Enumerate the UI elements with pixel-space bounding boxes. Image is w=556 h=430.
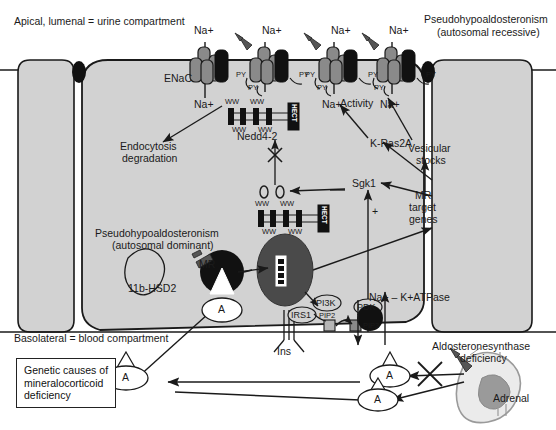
py-label-4: PY xyxy=(305,71,315,80)
pip2-node[interactable] xyxy=(324,320,335,331)
legend-line-3: deficiency xyxy=(24,389,108,402)
pha-recessive-line2: (autosomal recessive) xyxy=(437,27,540,39)
legend-box: Genetic causes of mineralocorticoid defi… xyxy=(16,358,116,408)
aldo-synthase-line2: deficiency xyxy=(460,353,507,365)
irs1-label: IRS1 xyxy=(291,310,311,320)
py-label-2: PY xyxy=(248,84,258,93)
hsd2-label: 11b-HSD2 xyxy=(128,283,176,295)
py-label-6: PY xyxy=(368,71,378,80)
apical-compartment-label: Apical, lumenal = urine compartment xyxy=(14,16,185,28)
enac-label: ENaC xyxy=(164,73,192,85)
py-label-5: PY xyxy=(317,84,327,93)
arrow-adrenal-to-a-upper xyxy=(408,374,464,376)
basolateral-compartment-label: Basolateral = blood compartment xyxy=(14,333,168,345)
hect-label-lower: HECT xyxy=(321,206,328,224)
pi3k-label: PI3K xyxy=(316,298,336,308)
py-label-7: PY xyxy=(374,84,384,93)
mr-target-line1: MR xyxy=(415,190,431,202)
ww-label-l2: WW xyxy=(280,200,294,209)
ww-label-l1: WW xyxy=(255,200,269,209)
na-label-in-1: Na+ xyxy=(194,99,214,111)
legend-line-1: Genetic causes of xyxy=(24,364,108,377)
ww-label-l3: WW xyxy=(262,228,276,237)
na-label-out-1: Na+ xyxy=(194,25,214,37)
ww-label-u1: WW xyxy=(225,98,239,107)
mr-label: MR xyxy=(199,259,215,271)
na-k-atpase-label: Na+ – K+ATPase xyxy=(369,292,450,304)
vesicular-line2: stocks xyxy=(416,155,446,167)
plus-sign-label: + xyxy=(372,206,378,218)
ww-label-l4: WW xyxy=(288,228,302,237)
mr-target-line3: genes xyxy=(409,214,438,226)
pha-dominant-line2: (autosomal dominant) xyxy=(112,240,214,252)
nucleus xyxy=(257,234,313,306)
a-label-mid-upper: A xyxy=(386,370,393,382)
aldo-synthase-line1: Aldosteronesynthase xyxy=(432,341,530,353)
pha-dominant-line1: Pseudohypoaldosteronism xyxy=(95,228,219,240)
neighbour-cell-left xyxy=(18,60,74,332)
k-ras2a-label: K-Ras2A xyxy=(370,138,412,150)
a-label-mid-lower: A xyxy=(374,394,381,406)
nedd4-2-label: Nedd4-2 xyxy=(237,131,277,143)
hect-label-upper: HECT xyxy=(291,104,298,122)
na-label-in-3: Na+ xyxy=(322,99,342,111)
tight-junction-left xyxy=(72,61,86,83)
vesicular-line1: Vesicular xyxy=(408,143,451,155)
inhibition-cross-adrenal xyxy=(418,362,442,386)
na-label-out-3: Na+ xyxy=(331,25,351,37)
line-aldosterone-transport-2 xyxy=(175,392,360,400)
na-label-out-2: Na+ xyxy=(262,25,282,37)
pip3-label: PIP3 xyxy=(363,322,379,331)
a-label-blood-left: A xyxy=(122,372,129,384)
pdk-label: PDK xyxy=(357,302,376,312)
pha-recessive-line1: Pseudohypoaldosteronism xyxy=(424,14,548,26)
ins-label: Ins xyxy=(277,346,291,358)
endocytosis-line1: Endocytosis xyxy=(120,141,177,153)
py-label-8: PY xyxy=(426,71,436,80)
a-label-mr-bound: A xyxy=(218,304,225,316)
adrenal-label: Adrenal xyxy=(493,393,529,405)
py-label-1: PY xyxy=(236,71,246,80)
na-label-out-4: Na+ xyxy=(389,25,409,37)
legend-line-2: mineralocorticoid xyxy=(24,377,108,390)
pip2-label: PIP2 xyxy=(319,312,335,321)
na-label-in-4: Na+ xyxy=(380,99,400,111)
activity-label: Activity xyxy=(340,98,373,110)
sgk1-label: Sgk1 xyxy=(352,178,376,190)
mr-target-line2: target xyxy=(409,202,436,214)
endocytosis-line2: degradation xyxy=(122,153,177,165)
figure-canvas: Apical, lumenal = urine compartment Pseu… xyxy=(0,0,556,430)
ww-label-u2: WW xyxy=(250,98,264,107)
